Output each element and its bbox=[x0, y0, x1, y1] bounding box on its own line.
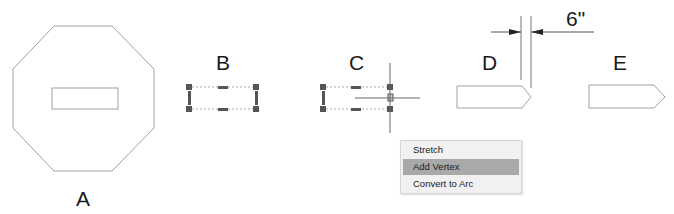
grip-vertex bbox=[253, 106, 259, 112]
grip-midpoint bbox=[255, 91, 258, 105]
grip-midpoint bbox=[322, 91, 325, 105]
shape-b-grips[interactable] bbox=[186, 84, 259, 112]
grip-vertex bbox=[186, 106, 192, 112]
grip-midpoint bbox=[218, 86, 228, 89]
label-b: B bbox=[216, 52, 230, 73]
menu-item-add-vertex[interactable]: Add Vertex bbox=[403, 159, 519, 175]
menu-item-stretch[interactable]: Stretch bbox=[403, 142, 519, 158]
menu-item-convert-to-arc[interactable]: Convert to Arc bbox=[403, 176, 519, 192]
grip-midpoint bbox=[351, 86, 361, 89]
grip-vertex bbox=[253, 84, 259, 90]
grip-vertex bbox=[320, 106, 326, 112]
grip-midpoint bbox=[351, 108, 361, 111]
shape-a-octagon[interactable] bbox=[13, 26, 154, 171]
label-c: C bbox=[349, 52, 364, 73]
label-e: E bbox=[613, 52, 627, 73]
shape-c-grips[interactable] bbox=[320, 63, 420, 133]
grip-midpoint bbox=[218, 108, 228, 111]
grip-vertex bbox=[320, 84, 326, 90]
label-d: D bbox=[482, 52, 497, 73]
shape-e-arrow[interactable] bbox=[589, 85, 665, 108]
label-a: A bbox=[76, 188, 90, 209]
dimension-text: 6" bbox=[566, 8, 585, 29]
drawing-canvas bbox=[0, 0, 674, 214]
grip-vertex bbox=[186, 84, 192, 90]
grip-midpoint bbox=[188, 91, 191, 105]
context-menu: Stretch Add Vertex Convert to Arc bbox=[400, 140, 522, 194]
